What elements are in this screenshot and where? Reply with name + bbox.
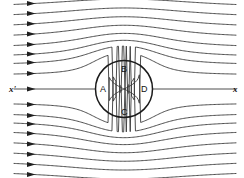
flow-direction-arrow-icon <box>27 162 36 167</box>
point-label-b: B <box>121 65 127 74</box>
flow-direction-arrow-icon <box>27 113 36 118</box>
flow-direction-arrow-icon <box>27 21 36 26</box>
streamline <box>14 163 236 170</box>
streamline <box>14 40 236 55</box>
streamline <box>14 173 236 178</box>
point-label-c: C <box>121 108 128 117</box>
flow-field-diagram <box>0 0 244 178</box>
axis-label-x-prime: x' <box>9 85 16 94</box>
flow-direction-arrow-icon <box>27 71 36 76</box>
streamline <box>14 17 236 25</box>
point-label-a: A <box>100 85 106 94</box>
flow-arrowheads-group <box>27 1 36 177</box>
streamline <box>14 153 236 161</box>
streamline <box>14 8 236 15</box>
flow-direction-arrow-icon <box>27 152 36 157</box>
flow-direction-arrow-icon <box>27 141 36 146</box>
streamlines-group <box>14 0 236 178</box>
flow-direction-arrow-icon <box>27 1 36 6</box>
flow-direction-arrow-icon <box>27 87 36 92</box>
streamline <box>14 123 236 138</box>
streamline <box>14 0 236 5</box>
flow-direction-arrow-icon <box>27 52 36 57</box>
flow-direction-arrow-icon <box>27 131 36 136</box>
axis-label-x: x <box>233 85 238 94</box>
streamline-figure: x' x A B C D <box>0 0 244 178</box>
streamline <box>14 33 236 45</box>
flow-direction-arrow-icon <box>27 60 36 65</box>
flow-direction-arrow-icon <box>27 102 36 107</box>
flow-direction-arrow-icon <box>27 42 36 47</box>
flow-direction-arrow-icon <box>27 121 36 126</box>
streamline <box>14 132 236 144</box>
flow-direction-arrow-icon <box>27 11 36 16</box>
flow-direction-arrow-icon <box>27 32 36 37</box>
flow-direction-arrow-icon <box>27 172 36 177</box>
point-label-d: D <box>141 85 148 94</box>
